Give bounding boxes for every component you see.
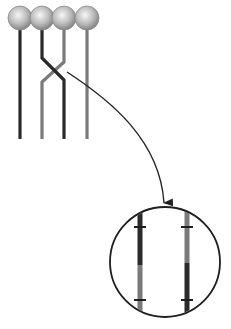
- left-chromatid-light-segment: [138, 265, 143, 325]
- centromere-3: [52, 6, 76, 30]
- centromere-1: [8, 6, 32, 30]
- chromatid-2-crossover: [42, 26, 64, 139]
- magnified-view: [110, 200, 220, 325]
- magnifier-circle: [110, 207, 220, 317]
- crossing-over-diagram: [0, 0, 231, 329]
- centromere-4: [75, 6, 99, 30]
- right-chromatid-dark-segment: [185, 263, 190, 325]
- magnify-arrow: [67, 72, 164, 203]
- bivalent-chromosomes: [20, 26, 87, 139]
- chromatid-3-crossover: [42, 26, 64, 139]
- centromeres: [8, 6, 99, 30]
- right-chromatid-light-segment: [185, 200, 190, 263]
- centromere-2: [30, 6, 54, 30]
- left-chromatid-dark-segment: [138, 200, 143, 265]
